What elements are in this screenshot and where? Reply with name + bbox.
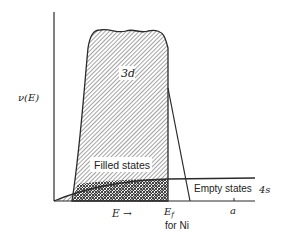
y-axis-label: ν(E): [18, 92, 39, 103]
fermi-level-label: Ef: [163, 206, 175, 219]
tick-a-label: a: [230, 205, 236, 216]
density-of-states-diagram: 3d Filled states Empty states 4s ν(E) E …: [0, 0, 289, 238]
band-4s-label: 4s: [258, 184, 271, 195]
band-4s-filled: [54, 179, 168, 201]
band-3d-empty-edge: [168, 88, 190, 201]
fermi-note-label: for Ni: [165, 220, 189, 231]
band-3d: [72, 30, 168, 201]
filled-states-label: Filled states: [94, 159, 150, 171]
empty-states-label: Empty states: [194, 183, 252, 194]
band-3d-label: 3d: [121, 67, 135, 80]
x-axis-label: E →: [111, 207, 132, 219]
